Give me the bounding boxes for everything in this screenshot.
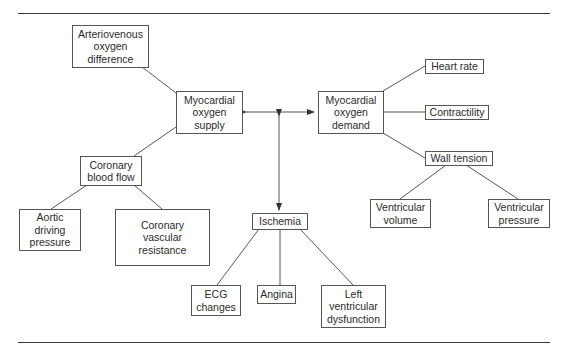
node-myocardial-oxygen-demand: Myocardial oxygen demand — [318, 91, 384, 134]
node-contractility: Contractility — [425, 105, 489, 120]
node-ventricular-pressure: Ventricular pressure — [488, 199, 550, 228]
node-heart-rate: Heart rate — [425, 59, 484, 74]
node-ventricular-volume: Ventricular volume — [370, 199, 431, 228]
node-arteriovenous-oxygen-difference: Arteriovenous oxygen difference — [72, 25, 149, 68]
node-ecg-changes: ECG changes — [191, 285, 241, 316]
node-coronary-vascular-resistance: Coronary vascular resistance — [115, 209, 210, 266]
node-angina: Angina — [257, 285, 296, 304]
node-coronary-blood-flow: Coronary blood flow — [80, 156, 142, 186]
node-myocardial-oxygen-supply: Myocardial oxygen supply — [176, 91, 243, 134]
node-ischemia: Ischemia — [252, 213, 308, 230]
node-left-ventricular-dysfunction: Left ventricular dysfunction — [321, 285, 386, 328]
node-aortic-driving-pressure: Aortic driving pressure — [19, 209, 81, 251]
node-wall-tension: Wall tension — [425, 151, 493, 166]
